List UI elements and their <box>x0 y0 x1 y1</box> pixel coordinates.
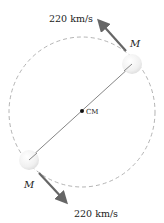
velocity-label-bottom: 220 km/s <box>74 208 118 219</box>
cm-dot <box>80 109 84 113</box>
velocity-label-top: 220 km/s <box>49 13 93 24</box>
mass-label-bottom: M <box>23 179 35 190</box>
velocity-arrow-top <box>100 22 126 51</box>
mass-label-top: M <box>129 38 141 49</box>
cm-label: CM <box>86 108 99 116</box>
binary-star-diagram: CM 220 km/s 220 km/s M M <box>0 0 164 223</box>
velocity-arrow-bottom <box>39 173 65 201</box>
